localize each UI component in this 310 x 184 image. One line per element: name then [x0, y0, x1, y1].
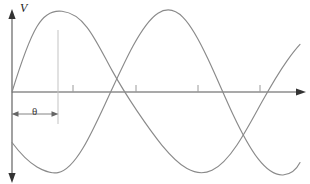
y-axis-label: V	[20, 2, 27, 14]
x-axis	[12, 88, 306, 95]
waveform-plot	[0, 0, 310, 184]
phase-angle-label: θ	[32, 106, 37, 117]
phase-dimension-right-arrowhead	[52, 111, 59, 117]
x-axis-ticks	[73, 85, 260, 92]
y-axis-up-arrowhead	[8, 9, 15, 19]
y-axis-down-arrowhead	[8, 173, 15, 183]
y-axis	[8, 9, 15, 183]
x-axis-right-arrowhead	[296, 88, 306, 95]
phase-shift-figure: V θ	[0, 0, 310, 184]
